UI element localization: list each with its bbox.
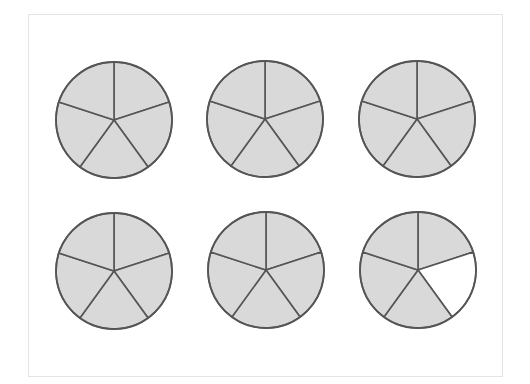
fraction-circle-6 bbox=[360, 212, 476, 328]
fraction-circle-4 bbox=[56, 213, 172, 329]
fraction-circles-diagram bbox=[0, 0, 530, 384]
fraction-circle-2 bbox=[207, 61, 323, 177]
fraction-circle-3 bbox=[359, 61, 475, 177]
fraction-circle-5 bbox=[208, 212, 324, 328]
fraction-circle-1 bbox=[56, 62, 172, 178]
